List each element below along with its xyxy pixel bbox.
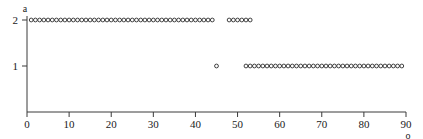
data-point [139, 18, 143, 22]
x-tick-label: 20 [106, 118, 118, 130]
y-axis-label: a [23, 3, 28, 14]
axis-layer [22, 16, 406, 117]
data-point [177, 18, 181, 22]
data-point [118, 18, 122, 22]
data-point [227, 18, 231, 22]
data-point [358, 64, 362, 68]
data-point [185, 18, 189, 22]
data-point [257, 64, 261, 68]
data-point [105, 18, 109, 22]
axis-label-layer: 010203040506070809012ao [13, 3, 413, 139]
data-point [303, 64, 307, 68]
data-point [151, 18, 155, 22]
data-point [349, 64, 353, 68]
data-point [328, 64, 332, 68]
data-point [248, 64, 252, 68]
data-point [67, 18, 71, 22]
data-point [240, 18, 244, 22]
data-point [248, 18, 252, 22]
data-point [244, 18, 248, 22]
data-point [278, 64, 282, 68]
data-point [307, 64, 311, 68]
data-point [92, 18, 96, 22]
data-point [265, 64, 269, 68]
data-point [172, 18, 176, 22]
data-point [143, 18, 147, 22]
data-point [375, 64, 379, 68]
data-point [261, 64, 265, 68]
data-point [274, 64, 278, 68]
data-point [215, 64, 219, 68]
data-point [101, 18, 105, 22]
data-point [147, 18, 151, 22]
data-point [290, 64, 294, 68]
data-point [362, 64, 366, 68]
data-point [206, 18, 210, 22]
x-tick-label: 30 [148, 118, 160, 130]
data-point [55, 18, 59, 22]
data-point [370, 64, 374, 68]
data-point [38, 18, 42, 22]
data-point [383, 64, 387, 68]
data-point [80, 18, 84, 22]
data-point [282, 64, 286, 68]
data-point [202, 18, 206, 22]
data-point [236, 18, 240, 22]
data-point [299, 64, 303, 68]
y-tick-label: 1 [13, 60, 19, 72]
data-point [34, 18, 38, 22]
data-point [126, 18, 130, 22]
data-point [156, 18, 160, 22]
data-point [109, 18, 113, 22]
data-point [194, 18, 198, 22]
data-point [114, 18, 118, 22]
x-tick-label: 90 [401, 118, 413, 130]
data-point [295, 64, 299, 68]
x-tick-label: 60 [274, 118, 286, 130]
data-point [122, 18, 126, 22]
data-point [316, 64, 320, 68]
data-point [63, 18, 67, 22]
data-point [160, 18, 164, 22]
data-point [168, 18, 172, 22]
data-point [29, 18, 33, 22]
data-point [59, 18, 63, 22]
x-tick-label: 80 [358, 118, 370, 130]
data-point [320, 64, 324, 68]
x-axis-label: o [406, 130, 411, 139]
data-point [97, 18, 101, 22]
data-point [333, 64, 337, 68]
data-point [210, 18, 214, 22]
scatter-chart: 010203040506070809012ao [0, 0, 423, 139]
data-point [189, 18, 193, 22]
data-point [387, 64, 391, 68]
data-point [400, 64, 404, 68]
data-point [164, 18, 168, 22]
data-point [324, 64, 328, 68]
data-point [181, 18, 185, 22]
data-point [50, 18, 54, 22]
x-tick-label: 40 [190, 118, 202, 130]
data-point [345, 64, 349, 68]
data-point [76, 18, 80, 22]
data-point [253, 64, 257, 68]
y-tick-label: 2 [13, 14, 19, 26]
data-point [396, 64, 400, 68]
data-point [71, 18, 75, 22]
x-tick-label: 10 [64, 118, 76, 130]
data-point [135, 18, 139, 22]
data-point [244, 64, 248, 68]
data-point [42, 18, 46, 22]
data-point [130, 18, 134, 22]
data-point [269, 64, 273, 68]
data-point [198, 18, 202, 22]
data-point [88, 18, 92, 22]
data-point [366, 64, 370, 68]
data-point [231, 18, 235, 22]
data-point-layer [29, 18, 403, 68]
data-point [391, 64, 395, 68]
data-point [46, 18, 50, 22]
data-point [341, 64, 345, 68]
x-tick-label: 50 [232, 118, 244, 130]
data-point [84, 18, 88, 22]
